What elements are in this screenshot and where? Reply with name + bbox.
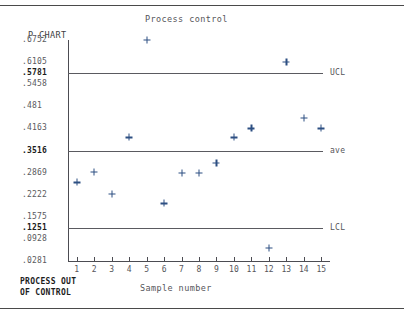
x-axis-tick-mark — [269, 257, 270, 261]
reference-line-label-ucl: UCL — [330, 68, 345, 77]
reference-line-ucl — [68, 73, 323, 74]
data-point — [73, 179, 80, 186]
x-axis-tick-label: 9 — [214, 265, 219, 274]
y-axis-tick-label: .5781 — [22, 68, 68, 77]
y-axis-tick-label: .1575 — [22, 212, 68, 221]
reference-line-ave — [68, 151, 323, 152]
reference-line-label-ave: ave — [330, 146, 345, 155]
status-message: PROCESS OUTOF CONTROL — [20, 276, 76, 298]
y-axis-tick-label: .0928 — [22, 234, 68, 243]
y-axis-tick-label: .481 — [22, 101, 68, 110]
x-axis-tick-label: 3 — [109, 265, 114, 274]
data-point — [143, 37, 150, 44]
data-point — [108, 190, 115, 197]
x-axis-tick-label: 6 — [162, 265, 167, 274]
reference-line-lcl — [68, 228, 323, 229]
y-axis-tick-label: .2869 — [22, 168, 68, 177]
y-axis-tick-label: .0281 — [22, 256, 68, 265]
data-point — [196, 169, 203, 176]
data-point — [300, 114, 307, 121]
x-axis-tick-label: 13 — [282, 265, 292, 274]
x-axis-tick-label: 1 — [74, 265, 79, 274]
status-line-2: OF CONTROL — [20, 288, 71, 297]
y-axis-tick-label: .5458 — [22, 79, 68, 88]
x-axis-tick-mark — [147, 257, 148, 261]
y-axis-tick-label: .6752 — [22, 35, 68, 44]
status-line-1: PROCESS OUT — [20, 277, 76, 286]
x-axis-tick-label: 11 — [247, 265, 257, 274]
data-point — [178, 169, 185, 176]
x-axis-tick-label: 4 — [127, 265, 132, 274]
data-point — [230, 134, 237, 141]
data-point — [283, 59, 290, 66]
x-axis-tick-mark — [304, 257, 305, 261]
x-axis-tick-mark — [216, 257, 217, 261]
x-axis-line — [68, 261, 330, 262]
y-axis-tick-label: .4163 — [22, 123, 68, 132]
x-axis-label: Sample number — [140, 283, 212, 293]
x-axis-tick-mark — [164, 257, 165, 261]
y-axis-tick-label: .6105 — [22, 57, 68, 66]
data-point — [126, 134, 133, 141]
data-point — [91, 168, 98, 175]
page-root: Process control P CHART .6752.6105.5781.… — [0, 0, 404, 319]
reference-line-label-lcl: LCL — [330, 223, 345, 232]
x-axis-tick-mark — [286, 257, 287, 261]
x-axis-tick-mark — [251, 257, 252, 261]
x-axis-tick-mark — [77, 257, 78, 261]
y-axis-tick-label: .3516 — [22, 146, 68, 155]
x-axis-tick-mark — [94, 257, 95, 261]
data-point — [248, 125, 255, 132]
y-axis-tick-labels: .6752.6105.5781.5458.481.4163.3516.2869.… — [22, 0, 68, 319]
x-axis-tick-label: 10 — [229, 265, 239, 274]
y-axis-tick-label: .1251 — [22, 223, 68, 232]
x-axis-tick-mark — [112, 257, 113, 261]
x-axis-tick-label: 5 — [144, 265, 149, 274]
x-axis-tick-mark — [199, 257, 200, 261]
x-axis-tick-label: 15 — [316, 265, 326, 274]
p-chart-plot: Process control P CHART .6752.6105.5781.… — [0, 0, 404, 319]
data-point — [161, 200, 168, 207]
x-axis-tick-mark — [234, 257, 235, 261]
x-axis-tick-label: 8 — [197, 265, 202, 274]
x-axis-tick-label: 7 — [179, 265, 184, 274]
x-axis-tick-label: 12 — [264, 265, 274, 274]
x-axis-tick-label: 14 — [299, 265, 309, 274]
data-point — [318, 125, 325, 132]
x-axis-tick-mark — [182, 257, 183, 261]
x-axis-tick-label: 2 — [92, 265, 97, 274]
data-point — [265, 245, 272, 252]
data-point — [213, 159, 220, 166]
chart-title: Process control — [145, 14, 228, 24]
x-axis-tick-mark — [321, 257, 322, 261]
x-axis-tick-mark — [129, 257, 130, 261]
y-axis-tick-label: .2222 — [22, 190, 68, 199]
